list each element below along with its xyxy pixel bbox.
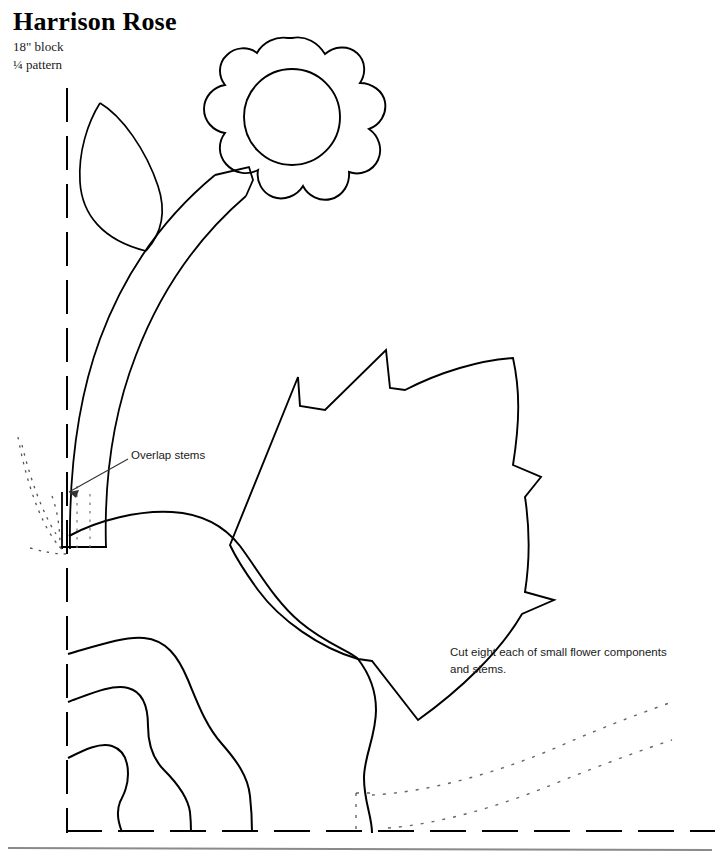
inner-wavy-curve-2 <box>68 687 191 832</box>
dotted-hint-left-1 <box>18 437 66 552</box>
bottom-rule <box>8 848 712 850</box>
lower-right-s-curve <box>358 659 376 833</box>
stem-edge-right <box>106 196 246 548</box>
annotation-cut-eight: Cut eight each of small flower component… <box>450 644 700 677</box>
annotation-leader-group <box>69 459 128 498</box>
overlap-stems-leader-line <box>69 459 128 492</box>
mid-s-curve <box>69 512 358 659</box>
pattern-drawing <box>0 0 715 862</box>
annotation-overlap-stems: Overlap stems <box>131 447 205 464</box>
stem-curved-band <box>61 167 253 549</box>
inner-wavy-curves <box>68 638 252 832</box>
stem-edge-left <box>70 175 215 549</box>
leaf-outline-outer <box>100 103 162 251</box>
mid-s-curve-group <box>69 512 376 833</box>
flower-head-group <box>204 37 385 199</box>
dotted-hint-left-group <box>18 437 66 554</box>
flower-head-inner-circle <box>244 69 340 165</box>
dotted-hint-right-group <box>356 702 672 831</box>
inner-wavy-curve-1 <box>68 638 252 832</box>
block-size-label: 18" block <box>13 38 177 56</box>
leaf-outline-inner <box>80 103 146 251</box>
leaf-upper-left <box>80 103 162 251</box>
title-block: Harrison Rose 18" block ¼ pattern <box>13 8 177 73</box>
dotted-hint-stem-base <box>77 486 90 548</box>
page-title: Harrison Rose <box>13 8 177 35</box>
dotted-hint-left-4 <box>52 496 60 548</box>
pattern-fraction-label: ¼ pattern <box>13 56 177 74</box>
dotted-hint-right-upper <box>372 702 672 795</box>
pattern-page: Harrison Rose 18" block ¼ pattern Overla… <box>0 0 715 862</box>
stem-top-cut <box>215 167 253 196</box>
guide-lines <box>8 88 715 850</box>
dotted-hint-left-3 <box>30 548 66 554</box>
flower-head-scalloped <box>204 37 385 199</box>
dotted-hint-left-2 <box>22 445 56 534</box>
dotted-hint-right-lower <box>388 740 672 828</box>
inner-wavy-curve-3 <box>68 745 128 832</box>
